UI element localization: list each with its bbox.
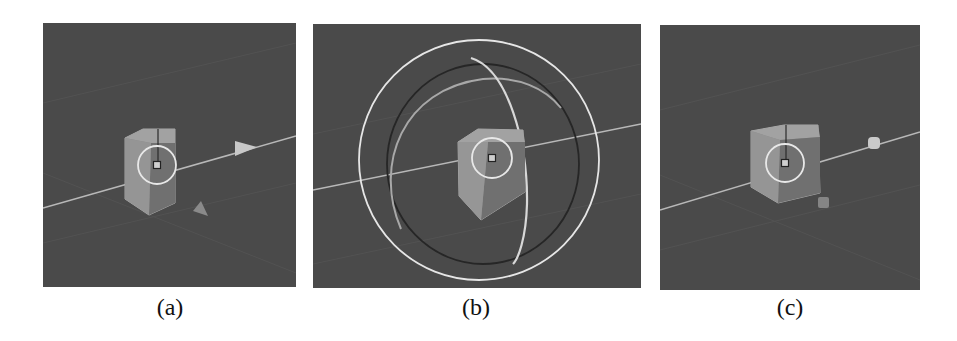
viewport-panel-c [660,25,920,290]
translate-gizmo-scene [43,23,296,287]
caption-a: (a) [140,294,200,321]
caption-b: (b) [446,294,506,321]
rotate-gizmo-scene [313,24,641,288]
scale-handle-light-icon [868,137,880,149]
cube-icon [125,129,175,215]
scale-handle-dark-icon [818,197,829,208]
scale-gizmo-scene [660,25,920,290]
pivot-point [154,162,161,169]
cube-icon [458,129,525,220]
translate-secondary-handle-icon [193,201,208,216]
pivot-point [489,155,496,162]
caption-c: (c) [760,294,820,321]
viewport-panel-a [43,23,296,287]
pivot-point [782,160,789,167]
viewport-panel-b [313,24,641,288]
